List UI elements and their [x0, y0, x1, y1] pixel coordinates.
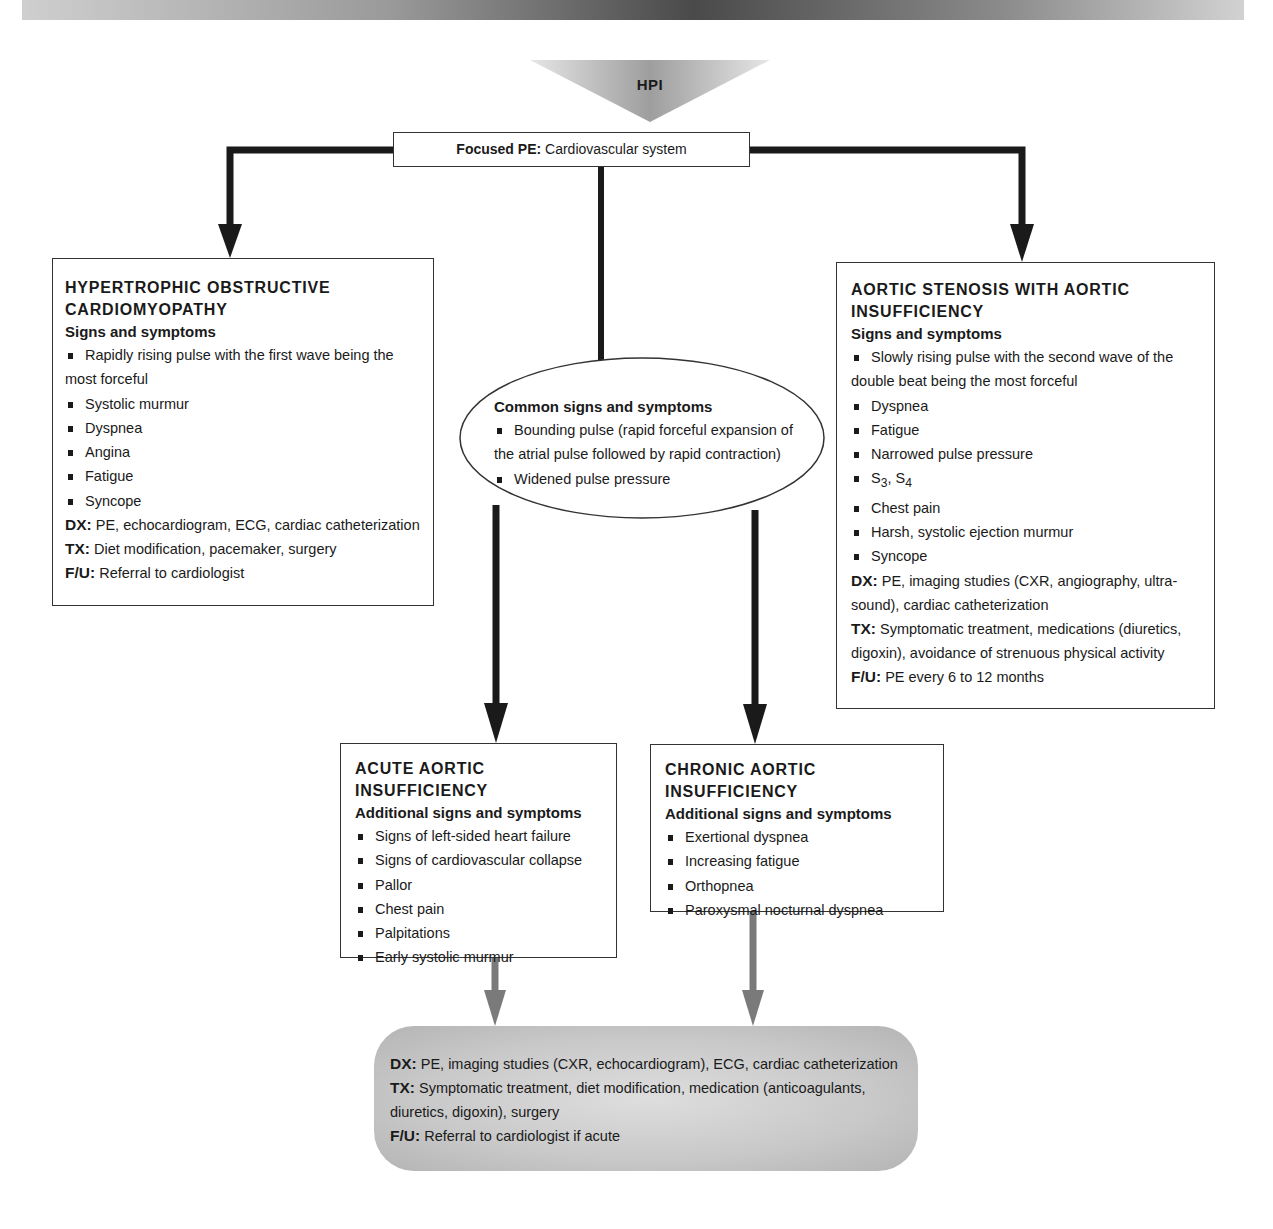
- left-branch-line: [230, 150, 393, 228]
- chronic-outcome-arrow-head-icon: [742, 990, 764, 1026]
- asai-title-line2: INSUFFICIENCY: [851, 301, 1202, 323]
- list-item: Pallor: [355, 873, 606, 897]
- fu-label: F/U:: [390, 1127, 420, 1144]
- s4-sub: 4: [905, 476, 912, 490]
- outcome-box: DX: PE, imaging studies (CXR, echocardio…: [374, 1026, 918, 1171]
- left-arrow-head-icon: [218, 224, 242, 258]
- list-item: Early systolic murmur: [355, 945, 606, 969]
- acute-ai-box: ACUTE AORTIC INSUFFICIENCY Additional si…: [340, 743, 617, 958]
- list-item: Paroxysmal nocturnal dyspnea: [665, 898, 933, 922]
- list-item: Harsh, systolic ejection murmur: [851, 520, 1202, 544]
- outcome-dx: DX: PE, imaging studies (CXR, echocardio…: [390, 1052, 908, 1076]
- dx-value: PE, imaging studies (CXR, angiography, u…: [851, 573, 1177, 613]
- fu-label: F/U:: [851, 668, 881, 685]
- dx-value: PE, echocardiogram, ECG, cardiac cathete…: [96, 517, 420, 533]
- list-item: Syncope: [851, 544, 1202, 568]
- chronic-ai-box: CHRONIC AORTIC INSUFFICIENCY Additional …: [650, 744, 944, 912]
- focused-pe-box: Focused PE: Cardiovascular system: [393, 132, 750, 167]
- outcome-fu: F/U: Referral to cardiologist if acute: [390, 1124, 908, 1148]
- asai-tx: TX: Symptomatic treatment, medications (…: [851, 617, 1202, 665]
- asai-subtitle: Signs and symptoms: [851, 323, 1202, 345]
- list-item: Bounding pulse (rapid forceful expansion…: [494, 418, 814, 467]
- chronic-subtitle: Additional signs and symptoms: [665, 803, 933, 825]
- list-item: Systolic murmur: [65, 392, 421, 416]
- list-item: Signs of left-sided heart failure: [355, 824, 606, 848]
- fu-value: PE every 6 to 12 months: [885, 669, 1044, 685]
- asai-dx: DX: PE, imaging studies (CXR, angiograph…: [851, 569, 1202, 617]
- s3: S: [871, 470, 881, 486]
- list-item: Dyspnea: [851, 394, 1202, 418]
- asai-box: AORTIC STENOSIS WITH AORTIC INSUFFICIENC…: [836, 262, 1215, 709]
- hocm-title-line1: HYPERTROPHIC OBSTRUCTIVE: [65, 277, 421, 299]
- acute-subtitle: Additional signs and symptoms: [355, 802, 606, 824]
- list-item: Dyspnea: [65, 416, 421, 440]
- acute-outcome-arrow-head-icon: [484, 990, 506, 1026]
- list-item: Exertional dyspnea: [665, 825, 933, 849]
- list-item: Widened pulse pressure: [494, 467, 814, 491]
- asai-title-line1: AORTIC STENOSIS WITH AORTIC: [851, 279, 1202, 301]
- list-item: Chest pain: [355, 897, 606, 921]
- tx-value: Symptomatic treatment, diet modification…: [390, 1080, 866, 1120]
- common-title: Common signs and symptoms: [494, 396, 814, 418]
- list-item: Increasing fatigue: [665, 849, 933, 873]
- list-item: Angina: [65, 440, 421, 464]
- right-arrow-head-icon: [1010, 224, 1034, 262]
- list-item: Syncope: [65, 489, 421, 513]
- list-item: Palpitations: [355, 921, 606, 945]
- list-item: Fatigue: [851, 418, 1202, 442]
- hocm-tx: TX: Diet modification, pacemaker, surger…: [65, 537, 421, 561]
- fu-value: Referral to cardiologist: [99, 565, 244, 581]
- common-signs-ellipse: Common signs and symptoms Bounding pulse…: [458, 356, 826, 520]
- outcome-tx: TX: Symptomatic treatment, diet modifica…: [390, 1076, 908, 1124]
- dx-label: DX:: [390, 1055, 417, 1072]
- list-item: Signs of cardiovascular collapse: [355, 848, 606, 872]
- tx-label: TX:: [851, 620, 876, 637]
- focused-pe-label: Focused PE:: [456, 141, 541, 157]
- dx-value: PE, imaging studies (CXR, echocardiogram…: [421, 1056, 898, 1072]
- list-item: Narrowed pulse pressure: [851, 442, 1202, 466]
- fu-label: F/U:: [65, 564, 95, 581]
- list-item: Chest pain: [851, 496, 1202, 520]
- acute-arrow-head-icon: [484, 703, 508, 743]
- hocm-fu: F/U: Referral to cardiologist: [65, 561, 421, 585]
- hocm-subtitle: Signs and symptoms: [65, 321, 421, 343]
- hocm-dx: DX: PE, echocardiogram, ECG, cardiac cat…: [65, 513, 421, 537]
- chronic-arrow-head-icon: [743, 704, 767, 744]
- hocm-title-line2: CARDIOMYOPATHY: [65, 299, 421, 321]
- tx-value: Symptomatic treatment, medications (diur…: [851, 621, 1181, 661]
- asai-fu: F/U: PE every 6 to 12 months: [851, 665, 1202, 689]
- hpi-label: HPI: [530, 76, 770, 93]
- list-item: Orthopnea: [665, 874, 933, 898]
- hpi-node: HPI: [530, 60, 770, 122]
- dx-label: DX:: [65, 516, 92, 533]
- focused-pe-value: Cardiovascular system: [545, 141, 687, 157]
- tx-label: TX:: [65, 540, 90, 557]
- tx-value: Diet modification, pacemaker, surgery: [94, 541, 337, 557]
- s4: S: [895, 470, 905, 486]
- list-item: Slowly rising pulse with the second wave…: [851, 345, 1202, 394]
- dx-label: DX:: [851, 572, 878, 589]
- hocm-box: HYPERTROPHIC OBSTRUCTIVE CARDIOMYOPATHY …: [52, 258, 434, 606]
- fu-value: Referral to cardiologist if acute: [424, 1128, 620, 1144]
- list-item-heart-sounds: S3, S4: [851, 466, 1202, 495]
- acute-title: ACUTE AORTIC INSUFFICIENCY: [355, 758, 606, 802]
- s3-sub: 3: [881, 476, 888, 490]
- right-branch-line: [750, 150, 1022, 228]
- tx-label: TX:: [390, 1079, 415, 1096]
- chronic-title: CHRONIC AORTIC INSUFFICIENCY: [665, 759, 933, 803]
- list-item: Fatigue: [65, 464, 421, 488]
- list-item: Rapidly rising pulse with the first wave…: [65, 343, 421, 392]
